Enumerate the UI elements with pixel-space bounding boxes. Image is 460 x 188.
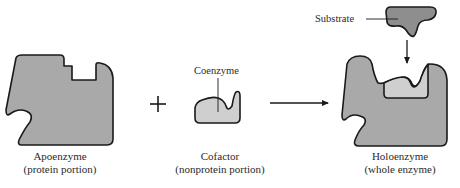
plus-icon xyxy=(150,96,166,112)
cofactor-label: Cofactor (nonprotein portion) xyxy=(160,150,280,176)
apoenzyme-label: Apoenzyme (protein portion) xyxy=(0,150,120,176)
cofactor-description: (nonprotein portion) xyxy=(160,163,280,176)
cofactor-shape xyxy=(195,78,240,123)
substrate-callout: Substrate xyxy=(315,13,354,25)
coenzyme-callout: Coenzyme xyxy=(194,65,239,77)
bound-coenzyme-shape xyxy=(384,64,428,98)
holoenzyme-label: Holoenzyme (whole enzyme) xyxy=(340,150,460,176)
apoenzyme-shape xyxy=(6,55,113,145)
cofactor-name: Cofactor xyxy=(160,150,280,163)
substrate-shape xyxy=(366,7,436,36)
holoenzyme-name: Holoenzyme xyxy=(340,150,460,163)
holoenzyme-shape xyxy=(342,56,447,146)
holoenzyme-description: (whole enzyme) xyxy=(340,163,460,176)
enzyme-diagram: Apoenzyme (protein portion) Coenzyme Cof… xyxy=(0,0,460,188)
apoenzyme-description: (protein portion) xyxy=(0,163,120,176)
apoenzyme-name: Apoenzyme xyxy=(0,150,120,163)
